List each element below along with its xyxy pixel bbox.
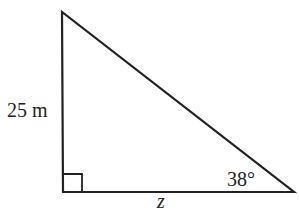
horizontal-side-label: z [157,191,165,210]
triangle [62,12,294,192]
right-angle-marker [64,174,82,191]
angle-label: 38° [227,169,255,189]
vertical-side-label: 25 m [7,100,48,120]
